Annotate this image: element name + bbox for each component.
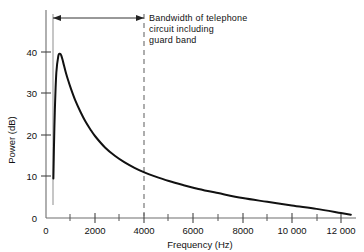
y-tick-label-20: 20 (26, 130, 37, 141)
bandwidth-annotation-text: Bandwidth of telephone circuit including… (149, 13, 247, 45)
x-axis-tick-labels: 0 2000 4000 6000 8000 10 000 12 000 (43, 225, 355, 236)
x-axis-title: Frequency (Hz) (167, 239, 232, 250)
y-tick-label-10: 10 (26, 171, 37, 182)
x-tick-label-6000: 6000 (182, 225, 203, 236)
x-tick-label-4000: 4000 (133, 225, 154, 236)
annotation-line-1: Bandwidth of telephone (149, 13, 247, 23)
bandwidth-arrow-head-left (53, 15, 61, 21)
x-tick-label-8000: 8000 (232, 225, 253, 236)
x-tick-label-0: 0 (43, 225, 48, 236)
bandwidth-double-arrow (53, 15, 144, 21)
y-axis-title: Power (dB) (6, 116, 17, 164)
y-axis-tick-labels: 40 30 20 10 0 (26, 47, 37, 224)
axis-lines (46, 10, 356, 218)
y-tick-label-30: 30 (26, 88, 37, 99)
chart-figure: 40 30 20 10 0 Power (dB) 0 2000 (0, 0, 364, 252)
y-tick-label-0: 0 (32, 213, 37, 224)
bandwidth-arrow-head-right (136, 15, 144, 21)
power-spectrum-chart: 40 30 20 10 0 Power (dB) 0 2000 (0, 0, 364, 252)
y-tick-label-40: 40 (26, 47, 37, 58)
spectrum-curve (53, 54, 350, 215)
annotation-line-2: circuit including (149, 24, 214, 34)
x-tick-label-12000: 12 000 (326, 225, 355, 236)
annotation-line-3: guard band (149, 35, 197, 45)
x-tick-label-2000: 2000 (84, 225, 105, 236)
x-tick-label-10000: 10 000 (277, 225, 306, 236)
